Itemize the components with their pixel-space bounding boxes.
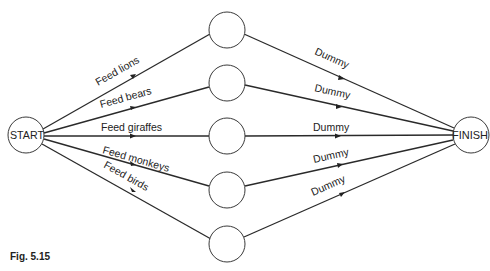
figure-caption: Fig. 5.15: [10, 251, 50, 262]
network-diagram: Feed lions Feed bears Feed giraffes Feed…: [0, 0, 490, 271]
arrow-icon: [130, 134, 136, 139]
label-dummy-2: Dummy: [314, 81, 353, 101]
intermediate-nodes: [209, 12, 245, 262]
event-node-5: [209, 226, 245, 262]
arrow-icon: [337, 163, 343, 168]
event-node-1: [209, 12, 245, 48]
edge-dummy-1: [244, 34, 454, 128]
dummy-labels: Dummy Dummy Dummy Dummy Dummy: [309, 45, 352, 198]
event-node-3: [209, 118, 245, 154]
edge-dummy-5: [244, 144, 455, 237]
edge-feed-lions: [43, 34, 210, 129]
finish-node: FINISH: [452, 117, 489, 153]
label-dummy-3: Dummy: [313, 121, 350, 133]
arrow-icon: [339, 192, 345, 197]
label-dummy-4: Dummy: [312, 145, 351, 165]
start-node: START: [8, 117, 45, 153]
event-node-2: [209, 65, 245, 101]
edge-dummy-3: [245, 135, 453, 136]
label-feed-giraffes: Feed giraffes: [101, 121, 162, 133]
start-label: START: [10, 129, 45, 141]
edge-dummy-4: [245, 140, 453, 186]
label-feed-lions: Feed lions: [93, 53, 141, 87]
finish-label: FINISH: [452, 129, 488, 141]
arrow-icon: [335, 134, 341, 139]
event-node-4: [209, 172, 245, 208]
label-feed-bears: Feed bears: [98, 84, 152, 110]
dummy-edges: [244, 34, 455, 237]
arrow-icon: [130, 187, 136, 192]
